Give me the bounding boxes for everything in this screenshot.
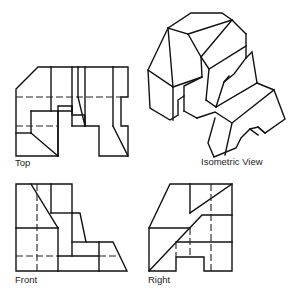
iso-edge [250, 129, 258, 135]
iso-edge [206, 69, 209, 100]
iso-edge [184, 111, 197, 118]
isometric-view-label: Isometric View [201, 157, 263, 167]
isometric-view [148, 13, 285, 157]
right-view [149, 184, 232, 271]
right-view-label: Right [148, 275, 170, 285]
iso-edge [216, 58, 246, 107]
front-edge [31, 184, 58, 228]
iso-edge [168, 28, 173, 87]
iso-left-block [148, 28, 202, 120]
top-edge [78, 97, 85, 126]
iso-edge [258, 127, 265, 133]
iso-edge [206, 100, 216, 107]
drawing-canvas [0, 0, 294, 294]
top-view-label: Top [15, 158, 30, 168]
iso-edge [246, 52, 257, 83]
top-edge [31, 133, 58, 156]
iso-edge [232, 20, 246, 34]
iso-edge [257, 83, 274, 90]
front-view [16, 184, 127, 271]
iso-edge [148, 70, 173, 87]
top-edge [113, 126, 128, 156]
iso-arch-block [197, 90, 285, 157]
front-view-label: Front [15, 275, 37, 285]
iso-edge [173, 77, 202, 87]
top-view [16, 67, 128, 156]
